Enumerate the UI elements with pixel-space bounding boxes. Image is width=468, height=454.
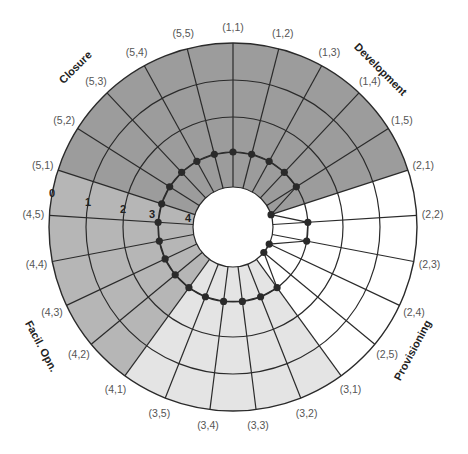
subsector-label: (5,1) (32, 159, 54, 171)
level-dot (304, 219, 311, 226)
ring-4 (193, 187, 273, 267)
level-dot (239, 298, 246, 305)
level-dot (248, 151, 255, 158)
subsector-label: (3,1) (340, 383, 362, 395)
ring-level-label: 3 (149, 208, 155, 220)
level-dot (211, 151, 218, 158)
subsector-label: (4,1) (105, 383, 127, 395)
level-dot (273, 284, 280, 291)
level-dot (162, 255, 169, 262)
ring-level-label: 1 (85, 196, 91, 208)
level-dot (220, 298, 227, 305)
subsector-label: (5,4) (126, 46, 148, 58)
ring-level-label: 0 (49, 187, 55, 199)
level-dot (267, 211, 274, 218)
level-dot (185, 284, 192, 291)
subsector-label: (5,5) (172, 27, 194, 39)
subsector-label: (1,5) (391, 114, 413, 126)
level-dot (257, 293, 264, 300)
level-dot (155, 219, 162, 226)
subsector-label: (1,2) (272, 27, 294, 39)
subsector-label: (2,4) (403, 306, 425, 318)
subsector-label: (5,3) (85, 75, 107, 87)
level-dot (172, 271, 179, 278)
subsector-label: (3,3) (247, 419, 269, 431)
subsector-label: (4,2) (68, 348, 90, 360)
level-dot (156, 237, 163, 244)
subsector-label: (1,3) (319, 46, 341, 58)
level-dot (229, 148, 236, 155)
subsector-label: (4,5) (23, 208, 45, 220)
level-dot (266, 240, 273, 247)
level-dot (178, 169, 185, 176)
subsector-label: (4,4) (26, 258, 48, 270)
subsector-label: (3,5) (149, 407, 171, 419)
subsector-label: (2,1) (412, 159, 434, 171)
subsector-label: (1,4) (359, 75, 381, 87)
subsector-label: (2,3) (419, 258, 441, 270)
ring-level-label: 2 (120, 203, 126, 215)
subsector-label: (2,2) (422, 208, 444, 220)
subsector-label: (2,5) (376, 348, 398, 360)
level-dot (260, 249, 267, 256)
phase-label: Development (352, 41, 410, 99)
subsector-label: (1,1) (222, 21, 244, 33)
level-dot (281, 169, 288, 176)
level-dot (266, 158, 273, 165)
subsector-label: (5,2) (53, 114, 75, 126)
level-dot (293, 183, 300, 190)
level-dot (202, 293, 209, 300)
level-dot (166, 183, 173, 190)
ring-level-label: 4 (185, 212, 192, 224)
subsector-label: (3,2) (296, 407, 318, 419)
level-dot (158, 200, 165, 207)
phase-label: Facil. Opn. (23, 318, 60, 373)
level-dot (193, 158, 200, 165)
radial-phase-diagram: (1,1)(1,2)(1,3)(1,4)(1,5)(2,1)(2,2)(2,3)… (0, 0, 468, 454)
subsector-label: (4,3) (41, 306, 63, 318)
level-dot (303, 237, 310, 244)
subsector-label: (3,4) (197, 419, 219, 431)
